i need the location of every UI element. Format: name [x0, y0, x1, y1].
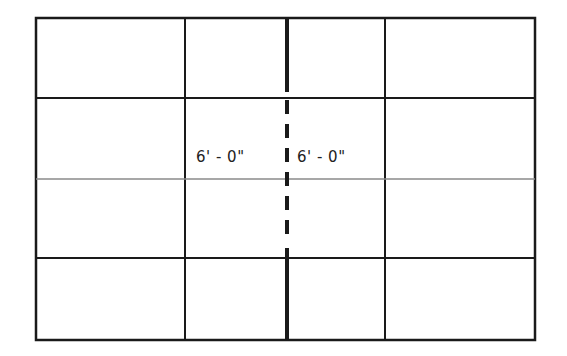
- grid-diagram: [0, 0, 567, 356]
- dimension-label-left: 6' - 0": [196, 148, 245, 166]
- dimension-label-right: 6' - 0": [297, 148, 346, 166]
